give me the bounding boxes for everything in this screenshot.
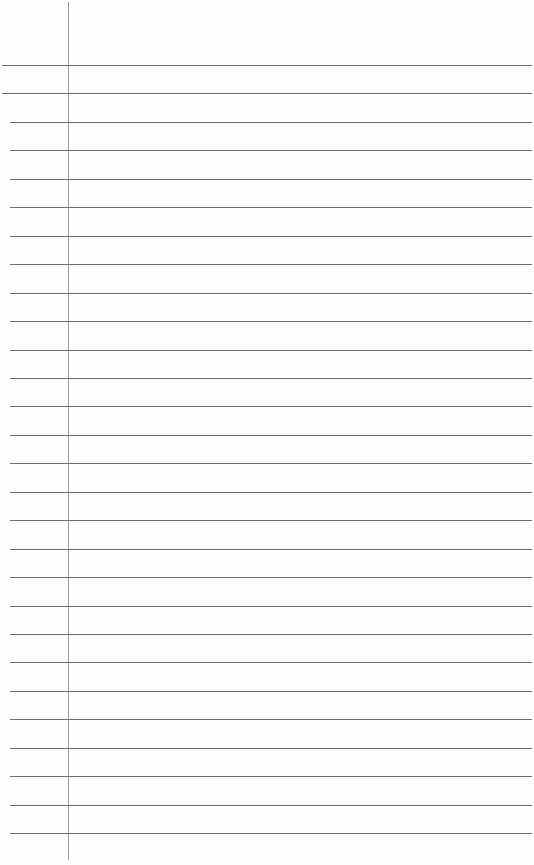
ruled-line: [2, 65, 532, 66]
lined-paper: [0, 0, 534, 865]
ruled-line: [10, 236, 532, 237]
ruled-line: [10, 549, 532, 550]
ruled-line: [10, 606, 532, 607]
ruled-line: [10, 122, 532, 123]
ruled-line: [10, 378, 532, 379]
ruled-line: [10, 207, 532, 208]
ruled-line: [10, 150, 532, 151]
margin-line: [68, 2, 69, 860]
ruled-line: [10, 350, 532, 351]
ruled-line: [10, 435, 532, 436]
ruled-line: [10, 492, 532, 493]
ruled-line: [10, 179, 532, 180]
ruled-line: [10, 577, 532, 578]
ruled-line: [10, 833, 532, 834]
ruled-line: [10, 805, 532, 806]
ruled-line: [10, 776, 532, 777]
ruled-line: [10, 406, 532, 407]
ruled-line: [10, 264, 532, 265]
ruled-line: [10, 463, 532, 464]
ruled-line: [10, 719, 532, 720]
ruled-line: [10, 662, 532, 663]
ruled-line: [10, 293, 532, 294]
ruled-line: [10, 520, 532, 521]
ruled-line: [10, 691, 532, 692]
ruled-line: [10, 748, 532, 749]
ruled-line: [10, 634, 532, 635]
ruled-line: [2, 93, 532, 94]
ruled-line: [10, 321, 532, 322]
